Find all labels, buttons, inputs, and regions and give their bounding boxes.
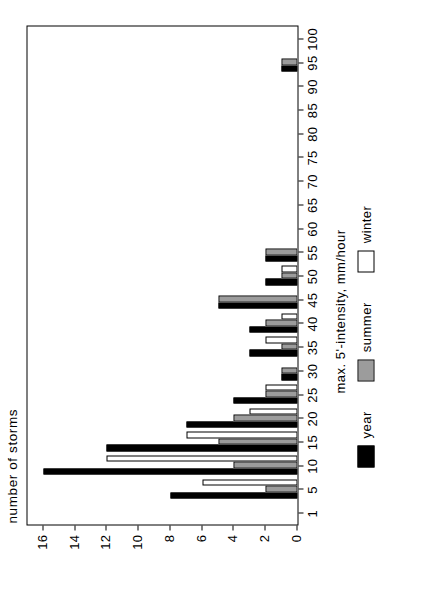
y-axis-tick-label: 16 <box>34 534 49 549</box>
y-axis-title: number of storms <box>4 408 19 523</box>
y-axis-tick-label: 6 <box>193 534 208 542</box>
legend-swatch-year <box>357 445 374 467</box>
x-axis-tick-label: 35 <box>304 340 319 355</box>
chart-figure-rotor: number of storms 0246810121416 151015202… <box>0 0 421 611</box>
x-axis-tick-label: 15 <box>304 434 319 449</box>
bar-summer-55 <box>265 248 297 254</box>
x-axis-tick <box>298 228 303 229</box>
x-axis-tick <box>298 109 303 110</box>
bar-year-45 <box>218 302 297 308</box>
bar-summer-20 <box>233 414 297 420</box>
x-axis-tick-label: 50 <box>304 268 319 283</box>
bar-summer-25 <box>265 390 297 396</box>
y-axis-tick-label: 4 <box>225 534 240 542</box>
x-axis-tick <box>298 85 303 86</box>
x-axis-tick-label: 90 <box>304 79 319 94</box>
x-axis: 1510152025303540455055606570758085909510… <box>298 25 328 525</box>
bar-winter-25 <box>265 384 297 390</box>
y-axis-tick <box>74 525 75 530</box>
legend-entry-summer: summer <box>357 302 374 381</box>
legend-swatch-summer <box>357 359 374 381</box>
x-axis-tick <box>298 465 303 466</box>
bar-summer-30 <box>281 367 297 373</box>
x-axis-tick-label: 1 <box>304 509 319 517</box>
chart-legend: yearsummerwinter <box>352 205 378 467</box>
y-axis-tick <box>42 525 43 530</box>
y-axis-tick <box>264 525 265 530</box>
x-axis-tick-label: 70 <box>304 174 319 189</box>
x-axis-tick <box>298 370 303 371</box>
x-axis-tick <box>298 251 303 252</box>
legend-swatch-winter <box>357 250 374 272</box>
x-axis-tick-label: 100 <box>304 27 319 50</box>
y-axis-tick <box>169 525 170 530</box>
bar-year-55 <box>265 255 297 261</box>
x-axis-tick <box>298 204 303 205</box>
bar-year-50 <box>265 278 297 284</box>
x-axis-tick-label: 20 <box>304 411 319 426</box>
bar-year-95 <box>281 65 297 71</box>
legend-label-year: year <box>358 411 373 438</box>
x-axis-tick <box>298 299 303 300</box>
y-axis-tick <box>201 525 202 530</box>
x-axis-tick-label: 55 <box>304 245 319 260</box>
x-axis-tick-label: 45 <box>304 292 319 307</box>
legend-entry-winter: winter <box>357 205 374 272</box>
x-axis-tick <box>298 394 303 395</box>
x-axis-tick <box>298 38 303 39</box>
legend-label-winter: winter <box>358 205 373 243</box>
bar-year-20 <box>186 421 297 427</box>
bar-winter-5 <box>202 479 297 485</box>
bar-winter-50 <box>281 265 297 271</box>
y-axis-tick <box>296 525 297 530</box>
bar-summer-15 <box>218 438 297 444</box>
x-axis-tick-label: 25 <box>304 387 319 402</box>
legend-label-summer: summer <box>358 302 373 352</box>
bar-year-25 <box>233 397 297 403</box>
y-axis-tick-label: 8 <box>161 534 176 542</box>
x-axis-tick-label: 80 <box>304 126 319 141</box>
x-axis-tick <box>298 275 303 276</box>
y-axis-tick <box>232 525 233 530</box>
x-axis-tick <box>298 62 303 63</box>
y-axis-tick <box>105 525 106 530</box>
x-axis-tick-label: 5 <box>304 486 319 494</box>
bar-winter-40 <box>281 313 297 319</box>
x-axis-tick <box>298 417 303 418</box>
bar-winter-20 <box>249 408 297 414</box>
legend-entry-year: year <box>357 411 374 467</box>
x-axis-tick <box>298 346 303 347</box>
bar-summer-10 <box>233 462 297 468</box>
y-axis-tick-label: 0 <box>289 534 304 542</box>
bar-summer-5 <box>265 485 297 491</box>
y-axis-tick-label: 14 <box>66 534 81 549</box>
x-axis-tick-label: 75 <box>304 150 319 165</box>
bar-year-10 <box>43 468 297 474</box>
bar-summer-40 <box>265 319 297 325</box>
bar-winter-15 <box>186 431 297 437</box>
bars-layer <box>27 26 297 524</box>
x-axis-tick <box>298 133 303 134</box>
x-axis-title: max. 5'-intensity, mm/hour <box>332 229 347 393</box>
y-axis-tick-label: 2 <box>257 534 272 542</box>
x-axis-tick-label: 60 <box>304 221 319 236</box>
x-axis-tick-label: 95 <box>304 55 319 70</box>
x-axis-tick-label: 40 <box>304 316 319 331</box>
x-axis-tick <box>298 156 303 157</box>
y-axis-tick-label: 10 <box>130 534 145 549</box>
x-axis-tick <box>298 512 303 513</box>
x-axis-tick-label: 65 <box>304 197 319 212</box>
y-axis-tick-label: 12 <box>98 534 113 549</box>
bar-winter-35 <box>265 336 297 342</box>
bar-summer-35 <box>281 343 297 349</box>
bar-year-5 <box>170 492 297 498</box>
bar-year-40 <box>249 326 297 332</box>
x-axis-tick <box>298 488 303 489</box>
bar-year-35 <box>249 349 297 355</box>
bar-summer-50 <box>281 272 297 278</box>
bar-summer-45 <box>218 296 297 302</box>
bar-year-30 <box>281 373 297 379</box>
chart-figure: number of storms 0246810121416 151015202… <box>0 0 421 611</box>
y-axis: 0246810121416 <box>26 525 298 571</box>
x-axis-tick <box>298 180 303 181</box>
